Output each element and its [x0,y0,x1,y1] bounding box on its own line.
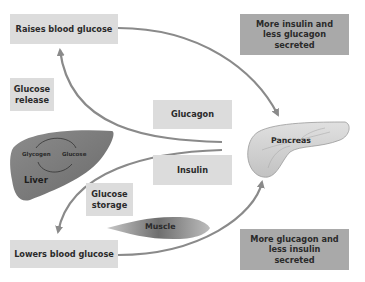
more-glucagon-box: More glucagon and less insulin secreted [240,229,349,270]
insulin-box: Insulin [153,155,232,185]
lowers-blood-glucose-box: Lowers blood glucose [10,240,118,268]
raises-blood-glucose-box: Raises blood glucose [10,14,118,44]
glucose-release-box: Glucose release [10,78,54,111]
liver-label: Liver [24,175,48,185]
pancreas-label: Pancreas [271,136,311,145]
glucose-cycle-label: Glucose [62,151,86,157]
muscle-label: Muscle [145,222,176,231]
glucose-storage-box: Glucose storage [86,183,133,216]
glycogen-label: Glycogen [22,151,51,157]
glucagon-box: Glucagon [153,100,232,129]
more-insulin-box: More insulin and less glucagon secreted [240,14,349,55]
